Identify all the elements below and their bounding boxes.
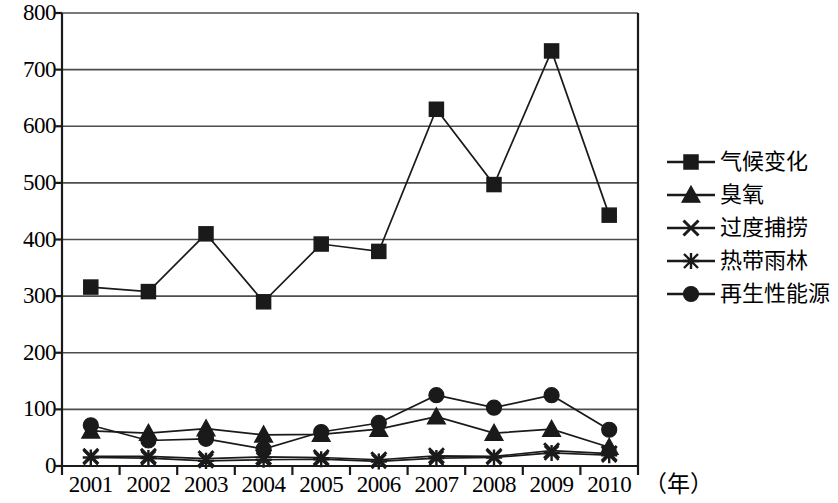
series-line (91, 395, 609, 449)
series-1 (84, 44, 616, 309)
marker-circle (487, 400, 502, 415)
marker-circle (314, 425, 329, 440)
x-tick-label: 2006 (347, 472, 411, 498)
legend-label: 过度捕捞 (716, 216, 808, 240)
y-tick-label: 0 (10, 454, 56, 477)
x-tick-label: 2005 (289, 472, 353, 498)
legend-marker-circle-icon (666, 284, 716, 304)
marker-circle (544, 388, 559, 403)
marker-circle (83, 418, 98, 433)
legend-item-4: 热带雨林 (666, 244, 838, 277)
legend-item-5: 再生性能源 (666, 277, 838, 310)
legend-label: 再生性能源 (716, 282, 830, 306)
marker-circle (684, 286, 699, 301)
marker-triangle (543, 420, 561, 436)
x-axis-unit-label: （年） (644, 472, 713, 498)
data-series-layer (62, 13, 638, 466)
marker-circle (429, 388, 444, 403)
legend-marker-asterisk-icon (666, 251, 716, 271)
marker-square (141, 285, 155, 299)
marker-circle (371, 415, 386, 430)
y-tick-label: 700 (10, 58, 56, 81)
chart-legend: 气候变化臭氧过度捕捞热带雨林再生性能源 (666, 145, 838, 310)
marker-square (199, 227, 213, 241)
x-tick-label: 2001 (59, 472, 123, 498)
y-tick-label: 200 (10, 341, 56, 364)
marker-asterisk (683, 252, 699, 268)
legend-marker-x-icon (666, 218, 716, 238)
legend-label: 臭氧 (716, 183, 764, 207)
marker-square (314, 237, 328, 251)
marker-asterisk (486, 449, 502, 465)
x-tick-label: 2004 (232, 472, 296, 498)
marker-square (257, 295, 271, 309)
plot-area (62, 13, 638, 466)
marker-circle (141, 433, 156, 448)
marker-circle (602, 422, 617, 437)
series-line (91, 51, 609, 302)
legend-label: 热带雨林 (716, 249, 808, 273)
series-3 (83, 443, 616, 467)
marker-asterisk (601, 447, 617, 463)
y-axis: 0100200300400500600700800 (0, 0, 56, 503)
y-tick-label: 300 (10, 284, 56, 307)
legend-item-3: 过度捕捞 (666, 211, 838, 244)
marker-square (684, 155, 698, 169)
marker-square (372, 244, 386, 258)
x-tick-label: 2007 (404, 472, 468, 498)
legend-label: 气候变化 (716, 150, 808, 174)
legend-item-1: 气候变化 (666, 145, 838, 178)
x-tick-label: 2003 (174, 472, 238, 498)
series-line (91, 417, 609, 448)
x-tick-label: 2010 (577, 472, 641, 498)
x-tick-label: 2002 (116, 472, 180, 498)
y-tick-label: 500 (10, 171, 56, 194)
marker-asterisk (371, 453, 387, 469)
marker-square (602, 208, 616, 222)
y-tick-label: 100 (10, 397, 56, 420)
legend-marker-square-icon (666, 152, 716, 172)
legend-marker-triangle-icon (666, 185, 716, 205)
y-tick-label: 600 (10, 114, 56, 137)
x-tick-label: 2008 (462, 472, 526, 498)
x-axis: 2001200220032004200520062007200820092010 (62, 472, 638, 502)
marker-asterisk (544, 445, 560, 461)
series-2 (82, 408, 618, 455)
marker-asterisk (428, 450, 444, 466)
y-tick-label: 800 (10, 1, 56, 24)
marker-asterisk (313, 451, 329, 467)
marker-square (84, 280, 98, 294)
series-5 (83, 388, 616, 457)
marker-asterisk (140, 450, 156, 466)
marker-triangle (427, 408, 445, 424)
marker-circle (199, 431, 214, 446)
marker-asterisk (198, 453, 214, 469)
marker-asterisk (83, 449, 99, 465)
marker-square (487, 178, 501, 192)
marker-circle (256, 442, 271, 457)
marker-square (545, 44, 559, 58)
line-chart-figure: 0100200300400500600700800 20012002200320… (0, 0, 838, 503)
legend-item-2: 臭氧 (666, 178, 838, 211)
marker-square (429, 102, 443, 116)
x-tick-label: 2009 (520, 472, 584, 498)
y-tick-label: 400 (10, 228, 56, 251)
